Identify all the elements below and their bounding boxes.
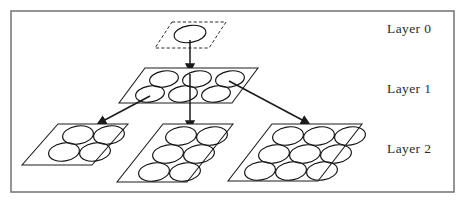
diagram-canvas: Layer 0 Layer 1 Layer 2 [0, 0, 466, 205]
layer-pyramid-diagram: Layer 0 Layer 1 Layer 2 [0, 0, 466, 205]
layer-0-label: Layer 0 [387, 21, 431, 36]
layer-2-label: Layer 2 [387, 141, 431, 156]
layer-1-label: Layer 1 [387, 81, 431, 96]
